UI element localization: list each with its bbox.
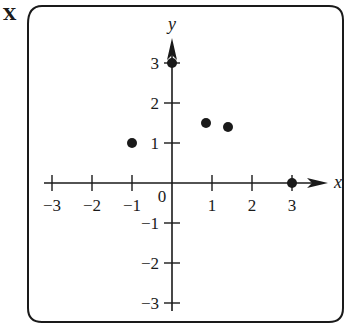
y-tick-label: 1 <box>151 134 160 153</box>
x-tick-label: −2 <box>83 196 101 215</box>
x-tick-label: −3 <box>43 196 61 215</box>
y-tick-label: 2 <box>151 94 160 113</box>
frame-border <box>28 6 343 322</box>
axes: xy <box>44 14 342 311</box>
y-tick-label: −2 <box>141 254 159 273</box>
scatter-plot: xy −3−2−1123−3−2−11230 <box>0 0 347 333</box>
y-tick-label: −3 <box>141 294 159 313</box>
data-point <box>223 122 233 132</box>
data-point <box>287 178 297 188</box>
x-tick-label: 2 <box>248 196 257 215</box>
y-axis-label: y <box>166 14 176 34</box>
x-tick-label: 1 <box>208 196 217 215</box>
y-tick-label: −1 <box>141 214 159 233</box>
x-axis-label: x <box>333 172 342 192</box>
data-point <box>201 118 211 128</box>
x-tick-label: 3 <box>288 196 297 215</box>
data-point <box>127 138 137 148</box>
y-tick-label: 3 <box>151 54 160 73</box>
data-point <box>167 58 177 68</box>
data-points <box>127 58 297 188</box>
origin-label: 0 <box>158 187 167 206</box>
x-tick-label: −1 <box>123 196 141 215</box>
